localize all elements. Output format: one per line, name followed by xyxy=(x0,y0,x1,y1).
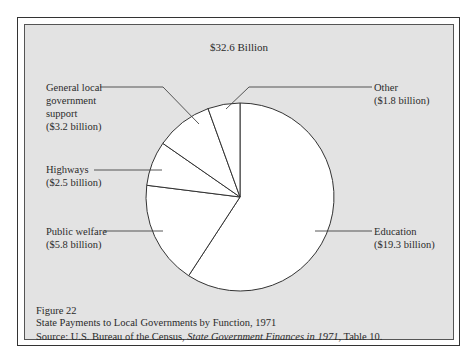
label-general-line3: support xyxy=(46,107,102,120)
label-general: General local government support ($3.2 b… xyxy=(46,81,102,133)
label-general-value: ($3.2 billion) xyxy=(46,120,102,133)
label-education-name: Education xyxy=(374,225,435,238)
label-highways-value: ($2.5 billion) xyxy=(46,176,101,189)
label-highways: Highways ($2.5 billion) xyxy=(46,163,101,189)
label-other: Other ($1.8 billion) xyxy=(374,81,429,107)
label-education: Education ($19.3 billion) xyxy=(374,225,435,251)
label-highways-name: Highways xyxy=(46,163,101,176)
label-welfare-value: ($5.8 billion) xyxy=(46,238,107,251)
label-welfare-name: Public welfare xyxy=(46,225,107,238)
leader-line-general xyxy=(100,87,199,124)
pie-slices xyxy=(146,103,334,291)
label-other-value: ($1.8 billion) xyxy=(374,94,429,107)
label-education-value: ($19.3 billion) xyxy=(374,238,435,251)
figure-source: Source: U.S. Bureau of the Census, State… xyxy=(36,330,382,343)
source-prefix: Source: U.S. Bureau of the Census, xyxy=(36,331,187,342)
source-suffix: , Table 10. xyxy=(338,331,382,342)
chart-title: $32.6 Billion xyxy=(210,41,268,53)
label-other-name: Other xyxy=(374,81,429,94)
label-welfare: Public welfare ($5.8 billion) xyxy=(46,225,107,251)
figure-caption: State Payments to Local Governments by F… xyxy=(36,316,276,329)
label-general-line2: government xyxy=(46,94,102,107)
label-general-line1: General local xyxy=(46,81,102,94)
source-title: State Government Finances in 1971 xyxy=(187,331,338,342)
